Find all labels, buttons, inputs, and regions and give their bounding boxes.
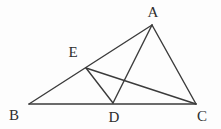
segment-AB bbox=[29, 25, 152, 104]
vertex-label-C: C bbox=[197, 109, 207, 124]
vertex-label-A: A bbox=[148, 5, 159, 20]
segments-group bbox=[29, 25, 196, 104]
geometry-figure: A B C D E bbox=[0, 0, 221, 129]
vertex-label-E: E bbox=[68, 45, 77, 60]
vertex-label-B: B bbox=[9, 108, 19, 123]
vertex-label-D: D bbox=[109, 110, 120, 125]
segment-ED bbox=[86, 68, 113, 103]
